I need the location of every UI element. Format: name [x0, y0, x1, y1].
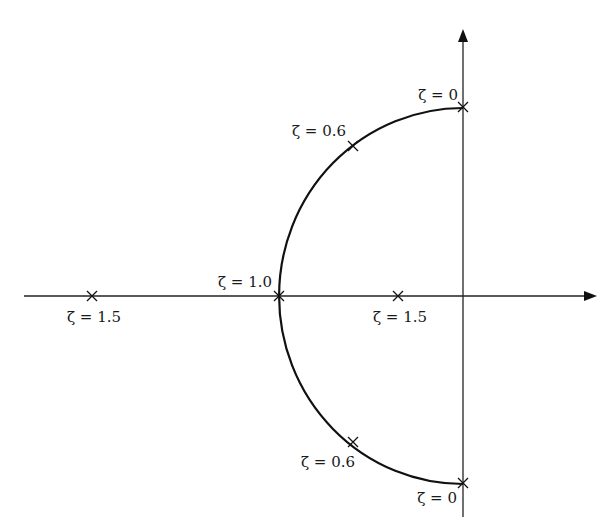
zeta-label: ζ = 0	[418, 86, 458, 104]
zeta-label: ζ = 1.5	[67, 308, 121, 326]
zeta-label: ζ = 0.6	[292, 122, 346, 140]
cross-marker-icon	[348, 141, 358, 151]
real-axis-arrow-icon	[584, 291, 597, 301]
imag-axis-arrow-icon	[458, 29, 468, 42]
imaginary-axis	[458, 29, 468, 517]
zeta-label: ζ = 0.6	[301, 453, 355, 471]
locus-point-zeta-0.6-top: ζ = 0.6	[292, 122, 358, 151]
locus-point-zeta-0.6-bottom: ζ = 0.6	[301, 437, 358, 471]
zeta-label: ζ = 0	[417, 489, 457, 507]
root-locus-diagram: ζ = 0ζ = 0.6ζ = 1.0ζ = 1.5ζ = 1.5ζ = 0.6…	[0, 0, 612, 526]
locus-point-zeta-1.0: ζ = 1.0	[218, 273, 284, 301]
zeta-label: ζ = 1.0	[218, 273, 272, 291]
zeta-label: ζ = 1.5	[373, 308, 427, 326]
real-axis	[24, 291, 597, 301]
